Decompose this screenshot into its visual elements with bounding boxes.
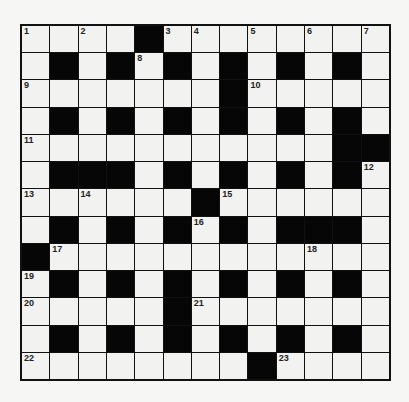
answer-cell[interactable]: 3 bbox=[164, 26, 191, 52]
answer-cell[interactable] bbox=[79, 80, 106, 106]
answer-cell[interactable]: 21 bbox=[192, 298, 219, 324]
answer-cell[interactable] bbox=[277, 244, 304, 270]
answer-cell[interactable] bbox=[192, 271, 219, 297]
answer-cell[interactable] bbox=[305, 271, 332, 297]
answer-cell[interactable] bbox=[79, 217, 106, 243]
answer-cell[interactable]: 10 bbox=[248, 80, 275, 106]
answer-cell[interactable] bbox=[22, 53, 49, 79]
answer-cell[interactable] bbox=[277, 135, 304, 161]
answer-cell[interactable] bbox=[79, 108, 106, 134]
answer-cell[interactable] bbox=[50, 26, 77, 52]
answer-cell[interactable] bbox=[248, 271, 275, 297]
answer-cell[interactable] bbox=[107, 26, 134, 52]
answer-cell[interactable] bbox=[248, 217, 275, 243]
answer-cell[interactable] bbox=[305, 298, 332, 324]
answer-cell[interactable] bbox=[22, 108, 49, 134]
answer-cell[interactable] bbox=[135, 244, 162, 270]
answer-cell[interactable] bbox=[362, 189, 389, 215]
answer-cell[interactable] bbox=[248, 162, 275, 188]
answer-cell[interactable] bbox=[362, 326, 389, 352]
answer-cell[interactable] bbox=[305, 108, 332, 134]
answer-cell[interactable] bbox=[333, 189, 360, 215]
answer-cell[interactable] bbox=[248, 108, 275, 134]
answer-cell[interactable] bbox=[305, 53, 332, 79]
answer-cell[interactable] bbox=[192, 353, 219, 379]
answer-cell[interactable] bbox=[305, 326, 332, 352]
answer-cell[interactable] bbox=[107, 189, 134, 215]
answer-cell[interactable] bbox=[220, 244, 247, 270]
answer-cell[interactable]: 2 bbox=[79, 26, 106, 52]
answer-cell[interactable] bbox=[135, 326, 162, 352]
answer-cell[interactable] bbox=[164, 135, 191, 161]
answer-cell[interactable] bbox=[248, 135, 275, 161]
answer-cell[interactable] bbox=[164, 80, 191, 106]
answer-cell[interactable] bbox=[135, 108, 162, 134]
answer-cell[interactable]: 6 bbox=[305, 26, 332, 52]
answer-cell[interactable] bbox=[79, 353, 106, 379]
answer-cell[interactable]: 7 bbox=[362, 26, 389, 52]
answer-cell[interactable] bbox=[135, 162, 162, 188]
answer-cell[interactable] bbox=[50, 80, 77, 106]
answer-cell[interactable] bbox=[22, 162, 49, 188]
answer-cell[interactable] bbox=[362, 298, 389, 324]
answer-cell[interactable] bbox=[333, 353, 360, 379]
answer-cell[interactable] bbox=[333, 80, 360, 106]
answer-cell[interactable] bbox=[135, 189, 162, 215]
answer-cell[interactable] bbox=[107, 135, 134, 161]
answer-cell[interactable] bbox=[135, 217, 162, 243]
answer-cell[interactable] bbox=[50, 298, 77, 324]
answer-cell[interactable] bbox=[107, 298, 134, 324]
answer-cell[interactable] bbox=[248, 244, 275, 270]
answer-cell[interactable] bbox=[50, 189, 77, 215]
answer-cell[interactable] bbox=[277, 26, 304, 52]
answer-cell[interactable] bbox=[107, 353, 134, 379]
answer-cell[interactable] bbox=[362, 244, 389, 270]
answer-cell[interactable]: 11 bbox=[22, 135, 49, 161]
answer-cell[interactable] bbox=[164, 189, 191, 215]
answer-cell[interactable] bbox=[135, 271, 162, 297]
answer-cell[interactable]: 19 bbox=[22, 271, 49, 297]
answer-cell[interactable] bbox=[305, 80, 332, 106]
answer-cell[interactable] bbox=[22, 217, 49, 243]
answer-cell[interactable]: 13 bbox=[22, 189, 49, 215]
answer-cell[interactable] bbox=[333, 244, 360, 270]
answer-cell[interactable]: 5 bbox=[248, 26, 275, 52]
answer-cell[interactable] bbox=[79, 244, 106, 270]
answer-cell[interactable] bbox=[362, 53, 389, 79]
answer-cell[interactable] bbox=[164, 353, 191, 379]
answer-cell[interactable] bbox=[220, 135, 247, 161]
answer-cell[interactable] bbox=[305, 162, 332, 188]
answer-cell[interactable] bbox=[248, 53, 275, 79]
answer-cell[interactable] bbox=[277, 189, 304, 215]
answer-cell[interactable]: 22 bbox=[22, 353, 49, 379]
answer-cell[interactable] bbox=[277, 80, 304, 106]
answer-cell[interactable] bbox=[362, 217, 389, 243]
answer-cell[interactable]: 18 bbox=[305, 244, 332, 270]
answer-cell[interactable] bbox=[192, 53, 219, 79]
answer-cell[interactable] bbox=[277, 298, 304, 324]
answer-cell[interactable]: 8 bbox=[135, 53, 162, 79]
answer-cell[interactable] bbox=[220, 26, 247, 52]
answer-cell[interactable] bbox=[362, 353, 389, 379]
answer-cell[interactable] bbox=[192, 80, 219, 106]
answer-cell[interactable] bbox=[135, 298, 162, 324]
answer-cell[interactable] bbox=[79, 53, 106, 79]
answer-cell[interactable]: 23 bbox=[277, 353, 304, 379]
answer-cell[interactable] bbox=[305, 353, 332, 379]
answer-cell[interactable]: 9 bbox=[22, 80, 49, 106]
answer-cell[interactable] bbox=[50, 135, 77, 161]
answer-cell[interactable] bbox=[362, 271, 389, 297]
answer-cell[interactable]: 14 bbox=[79, 189, 106, 215]
answer-cell[interactable] bbox=[192, 326, 219, 352]
answer-cell[interactable]: 16 bbox=[192, 217, 219, 243]
answer-cell[interactable] bbox=[79, 298, 106, 324]
answer-cell[interactable] bbox=[79, 135, 106, 161]
answer-cell[interactable] bbox=[192, 108, 219, 134]
answer-cell[interactable] bbox=[362, 80, 389, 106]
answer-cell[interactable] bbox=[248, 189, 275, 215]
answer-cell[interactable] bbox=[107, 80, 134, 106]
answer-cell[interactable]: 15 bbox=[220, 189, 247, 215]
answer-cell[interactable] bbox=[164, 244, 191, 270]
answer-cell[interactable] bbox=[362, 108, 389, 134]
answer-cell[interactable] bbox=[79, 326, 106, 352]
